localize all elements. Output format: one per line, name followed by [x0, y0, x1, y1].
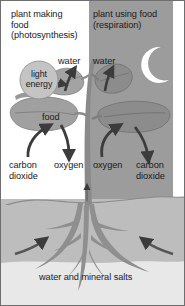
label-photosynthesis-title: plant making food (photosynthesis) [11, 9, 78, 41]
label-water-right: water [93, 56, 115, 67]
label-carbon-dioxide-left: carbon dioxide [9, 160, 38, 181]
label-respiration-title: plant using food (respiration) [93, 9, 157, 30]
photosynthesis-respiration-diagram: plant making food (photosynthesis) plant… [0, 0, 185, 306]
light-energy-group [1, 1, 185, 306]
label-light-energy: light energy [22, 69, 56, 89]
label-oxygen-right: oxygen [93, 160, 122, 171]
label-oxygen-left: oxygen [54, 160, 83, 171]
label-food: food [42, 112, 60, 123]
label-carbon-dioxide-right: carbon dioxide [136, 160, 165, 181]
label-water-and-mineral-salts: water and mineral salts [39, 272, 132, 283]
label-water-left: water [58, 56, 80, 67]
